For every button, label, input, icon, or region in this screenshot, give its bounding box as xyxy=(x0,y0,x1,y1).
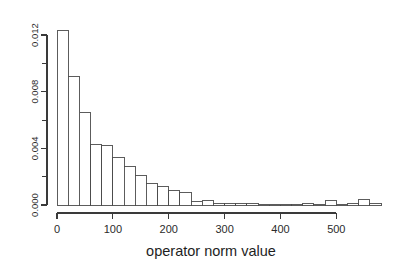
histogram-bar xyxy=(225,203,236,205)
histogram-bar xyxy=(336,204,347,205)
histogram-bar xyxy=(314,204,325,205)
histogram-bar xyxy=(247,203,258,205)
histogram-bar xyxy=(370,204,381,205)
histogram-bar xyxy=(68,77,79,205)
histogram-bar xyxy=(359,200,370,205)
histogram-bar xyxy=(347,204,358,205)
histogram-bar xyxy=(213,204,224,205)
histogram-bar xyxy=(113,158,124,205)
histogram-bar xyxy=(146,184,157,205)
histogram-bars xyxy=(57,30,381,205)
y-axis-tick-label: 0.000 xyxy=(29,193,40,217)
histogram-bar xyxy=(102,146,113,206)
x-axis-tick-label: 200 xyxy=(160,223,178,235)
histogram-bar xyxy=(292,204,303,205)
histogram-bar xyxy=(202,201,213,205)
histogram-bar xyxy=(303,204,314,205)
histogram-bar xyxy=(269,204,280,205)
y-axis: 0.0000.0040.0080.012 xyxy=(29,23,47,217)
histogram-bar xyxy=(258,204,269,205)
histogram-bar xyxy=(191,202,202,205)
x-axis-tick-label: 400 xyxy=(271,223,289,235)
histogram-bar xyxy=(79,112,90,205)
histogram-bar xyxy=(236,204,247,205)
y-axis-tick-label: 0.012 xyxy=(29,23,40,47)
histogram-bar xyxy=(158,187,169,205)
x-axis-tick-label: 300 xyxy=(215,223,233,235)
histogram-bar xyxy=(280,204,291,205)
histogram-bar xyxy=(169,190,180,205)
y-axis-tick-label: 0.008 xyxy=(29,80,40,104)
x-axis-tick-label: 500 xyxy=(327,223,345,235)
histogram-plot: 0.0000.0040.0080.0120100200300400500oper… xyxy=(0,0,397,275)
histogram-bar xyxy=(91,145,102,205)
histogram-bar xyxy=(325,200,336,205)
x-axis: 0100200300400500 xyxy=(54,213,346,235)
histogram-bar xyxy=(135,176,146,205)
histogram-bar xyxy=(124,167,135,205)
x-axis-title: operator norm value xyxy=(146,243,276,259)
x-axis-tick-label: 0 xyxy=(54,223,60,235)
histogram-bar xyxy=(57,30,68,205)
histogram-figure: 0.0000.0040.0080.0120100200300400500oper… xyxy=(0,0,397,275)
histogram-bar xyxy=(180,192,191,205)
y-axis-tick-label: 0.004 xyxy=(29,136,40,160)
x-axis-tick-label: 100 xyxy=(104,223,122,235)
